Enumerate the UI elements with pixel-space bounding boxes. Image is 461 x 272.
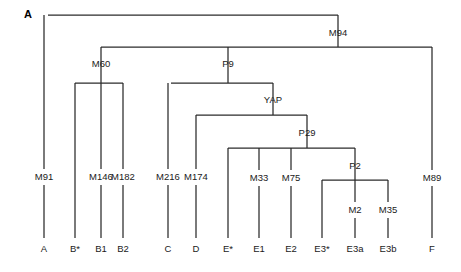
node-label-p2: P2 xyxy=(349,160,361,171)
leaf-label-b: B* xyxy=(70,243,80,254)
mutation-label-group: M91M146M182M216M174M33M75M2M35M89 xyxy=(35,171,441,215)
mutation-label-m174: M174 xyxy=(184,171,208,182)
mutation-label-m75: M75 xyxy=(282,172,300,183)
mutation-label-m2: M2 xyxy=(348,204,361,215)
node-label-p9: P9 xyxy=(222,58,234,69)
node-label-yap: YAP xyxy=(264,94,282,105)
leaf-label-b1: B1 xyxy=(95,243,107,254)
panel-label: A xyxy=(24,8,32,20)
mutation-label-m89: M89 xyxy=(423,172,441,183)
tree-diagram: M94M60P9YAPP29P2 M91M146M182M216M174M33M… xyxy=(0,0,461,272)
mutation-label-m91: M91 xyxy=(35,171,53,182)
mutation-label-m182: M182 xyxy=(111,171,135,182)
leaf-label-e1: E1 xyxy=(253,243,265,254)
leaf-label-e3a: E3a xyxy=(347,243,365,254)
node-label-m94: M94 xyxy=(329,27,347,38)
leaf-label-f: F xyxy=(429,243,435,254)
internal-node-group xyxy=(75,15,432,180)
leaf-branch-group xyxy=(44,15,432,238)
leaf-label-e3b: E3b xyxy=(380,243,397,254)
leaf-label-e3: E3* xyxy=(314,243,330,254)
leaf-label-c: C xyxy=(165,243,172,254)
mutation-label-m33: M33 xyxy=(250,172,268,183)
mutation-label-m216: M216 xyxy=(156,171,180,182)
leaf-label-b2: B2 xyxy=(117,243,129,254)
phylogenetic-tree-figure: M94M60P9YAPP29P2 M91M146M182M216M174M33M… xyxy=(0,0,461,272)
mutation-label-m35: M35 xyxy=(379,204,397,215)
leaf-label-e: E* xyxy=(223,243,233,254)
leaf-label-e2: E2 xyxy=(285,243,297,254)
leaf-label-a: A xyxy=(41,243,48,254)
mutation-label-m146: M146 xyxy=(89,171,113,182)
leaf-label-d: D xyxy=(193,243,200,254)
node-label-m60: M60 xyxy=(92,58,110,69)
leaf-label-group: AB*B1B2CDE*E1E2E3*E3aE3bF xyxy=(41,243,435,254)
node-label-p29: P29 xyxy=(299,127,316,138)
node-label-group: M94M60P9YAPP29P2 xyxy=(92,27,361,171)
